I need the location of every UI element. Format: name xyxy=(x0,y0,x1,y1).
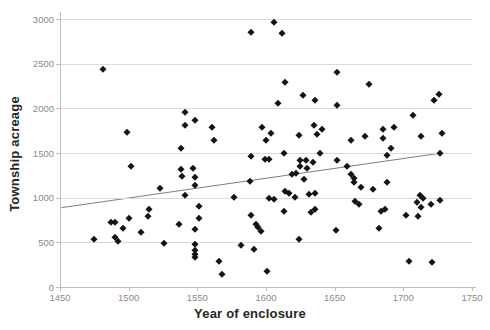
x-tick-label-1450: 1450 xyxy=(43,292,77,303)
y-tick-label-2000: 2000 xyxy=(20,103,54,114)
scatter-chart: Township acreage Year of enclosure 05001… xyxy=(0,0,490,330)
y-tick-label-2500: 2500 xyxy=(20,58,54,69)
y-tick-3000 xyxy=(56,19,61,20)
x-tick-label-1600: 1600 xyxy=(249,292,283,303)
gridline-y-2000 xyxy=(60,108,472,109)
x-tick-1600 xyxy=(266,287,267,291)
y-tick-label-1000: 1000 xyxy=(20,192,54,203)
y-tick-2500 xyxy=(56,64,61,65)
x-tick-label-1500: 1500 xyxy=(112,292,146,303)
x-tick-1700 xyxy=(403,287,404,291)
y-tick-500 xyxy=(56,242,61,243)
x-tick-label-1550: 1550 xyxy=(180,292,214,303)
x-tick-label-1650: 1650 xyxy=(318,292,352,303)
gridline-y-3000 xyxy=(60,19,472,20)
gridline-y-2500 xyxy=(60,64,472,65)
x-tick-1500 xyxy=(129,287,130,291)
y-tick-1500 xyxy=(56,153,61,154)
y-tick-1000 xyxy=(56,198,61,199)
x-tick-label-1750: 1750 xyxy=(455,292,489,303)
y-tick-label-0: 0 xyxy=(20,282,54,293)
x-tick-1650 xyxy=(335,287,336,291)
x-axis-title: Year of enclosure xyxy=(40,306,460,321)
y-tick-2000 xyxy=(56,108,61,109)
plot-area xyxy=(60,19,472,287)
y-tick-label-1500: 1500 xyxy=(20,148,54,159)
gridline-y-500 xyxy=(60,242,472,243)
x-tick-1550 xyxy=(197,287,198,291)
x-tick-label-1700: 1700 xyxy=(386,292,420,303)
x-tick-1750 xyxy=(472,287,473,291)
y-tick-label-500: 500 xyxy=(20,237,54,248)
y-tick-label-3000: 3000 xyxy=(20,14,54,25)
gridline-y-1500 xyxy=(60,153,472,154)
x-tick-1450 xyxy=(60,287,61,291)
